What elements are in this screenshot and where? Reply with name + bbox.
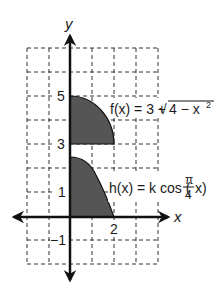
f-shaded-region: [70, 96, 114, 144]
h-label-suffix: x): [195, 180, 207, 196]
h-frac-num: π: [185, 173, 193, 187]
h-label-prefix: h(x) = k cos (: [109, 180, 191, 196]
tick-label-y5: 5: [57, 88, 65, 104]
svg-text:f(x) = 3 +: f(x) = 3 +: [110, 101, 166, 117]
h-function-label: h(x) = k cos ( π 4 x): [108, 172, 208, 202]
tick-label-y1: 1: [58, 184, 66, 200]
tick-label-yneg1: −1: [50, 232, 66, 248]
h-frac-den: 4: [185, 188, 192, 202]
f-exponent: 2: [206, 100, 211, 110]
f-function-label: f(x) = 3 + √ 4 − x 2: [108, 98, 216, 118]
y-axis-label: y: [64, 15, 74, 32]
sqrt-symbol: √: [159, 101, 167, 117]
f-label-prefix: f(x) = 3 +: [110, 101, 166, 117]
graph-figure: y x 5 3 1 −1 2 f(x) = 3 + √ 4 − x 2 h(x)…: [0, 0, 222, 290]
f-radicand: 4 − x: [169, 101, 200, 117]
h-shaded-region: [70, 157, 114, 217]
tick-label-x2: 2: [110, 221, 118, 237]
x-axis-label: x: [173, 208, 182, 225]
tick-label-y3: 3: [57, 136, 65, 152]
grid: [27, 48, 158, 264]
